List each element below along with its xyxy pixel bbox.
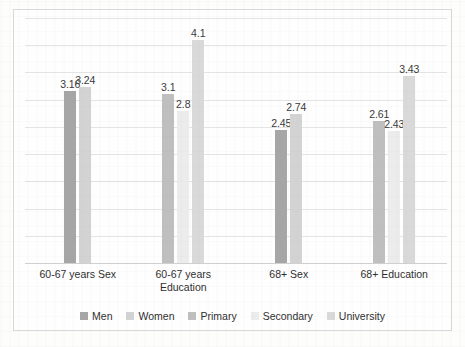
bar-value-label: 2.74 — [286, 101, 306, 113]
legend-item-primary[interactable]: Primary — [188, 310, 236, 322]
bar-groups: 3.163.243.12.84.12.452.742.612.433.43 — [25, 18, 447, 263]
bar-slot: 2.45 — [275, 18, 287, 263]
legend-swatch-icon — [126, 312, 134, 320]
x-axis-label: 68+ Sex — [236, 268, 342, 294]
legend-swatch-icon — [327, 312, 335, 320]
bar-group: 2.612.433.43 — [342, 18, 448, 263]
bar-slot: 3.16 — [64, 18, 76, 263]
legend-label: Men — [92, 310, 112, 322]
x-axis-label: 60-67 years Education — [131, 268, 237, 294]
bar-value-label: 3.24 — [75, 74, 95, 86]
bar-university[interactable]: 4.1 — [192, 40, 204, 263]
bar-slot: 2.8 — [177, 18, 189, 263]
bar-slot: 3.24 — [79, 18, 91, 263]
bar-secondary[interactable]: 2.8 — [177, 111, 189, 263]
bar-university[interactable]: 3.43 — [403, 76, 415, 263]
bar-value-label: 4.1 — [191, 27, 205, 39]
bar-women[interactable]: 2.74 — [290, 114, 302, 263]
legend-item-women[interactable]: Women — [126, 310, 174, 322]
bar-men[interactable]: 3.16 — [64, 91, 76, 263]
bar-primary[interactable]: 2.61 — [373, 121, 385, 263]
x-axis-labels: 60-67 years Sex60-67 years Education68+ … — [25, 268, 447, 294]
bar-slot: 2.74 — [290, 18, 302, 263]
legend-label: Primary — [200, 310, 236, 322]
legend-item-secondary[interactable]: Secondary — [251, 310, 313, 322]
x-axis-label: 60-67 years Sex — [25, 268, 131, 294]
x-axis-line — [25, 263, 447, 264]
legend-label: University — [339, 310, 385, 322]
legend-item-men[interactable]: Men — [80, 310, 112, 322]
legend-label: Women — [138, 310, 174, 322]
x-axis-label: 68+ Education — [342, 268, 448, 294]
bar-value-label: 3.43 — [399, 63, 419, 75]
bar-value-label: 3.1 — [161, 81, 175, 93]
bar-value-label: 2.43 — [384, 118, 404, 130]
bar-primary[interactable]: 3.1 — [162, 94, 174, 263]
bar-slot: 3.1 — [162, 18, 174, 263]
bar-group: 3.12.84.1 — [131, 18, 237, 263]
bar-slot: 4.1 — [192, 18, 204, 263]
bar-slot: 2.43 — [388, 18, 400, 263]
legend-swatch-icon — [80, 312, 88, 320]
chart-frame: 3.163.243.12.84.12.452.742.612.433.43 60… — [13, 9, 452, 331]
plot-area: 3.163.243.12.84.12.452.742.612.433.43 — [14, 18, 451, 263]
bar-women[interactable]: 3.24 — [79, 87, 91, 263]
bar-slot: 2.61 — [373, 18, 385, 263]
bar-slot: 3.43 — [403, 18, 415, 263]
bar-men[interactable]: 2.45 — [275, 130, 287, 263]
legend-item-university[interactable]: University — [327, 310, 385, 322]
bar-value-label: 2.8 — [176, 98, 190, 110]
legend-label: Secondary — [263, 310, 313, 322]
chart-legend: MenWomenPrimarySecondaryUniversity — [14, 310, 451, 322]
bar-group: 3.163.24 — [25, 18, 131, 263]
bar-group: 2.452.74 — [236, 18, 342, 263]
legend-swatch-icon — [188, 312, 196, 320]
bar-secondary[interactable]: 2.43 — [388, 131, 400, 263]
bar-value-label: 2.45 — [271, 117, 291, 129]
legend-swatch-icon — [251, 312, 259, 320]
